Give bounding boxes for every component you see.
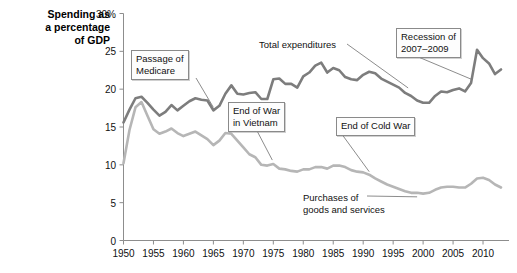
annotation-passage-of-medicare: Passage of Medicare <box>131 50 189 80</box>
series-line-purchases <box>124 102 502 194</box>
x-tick-1965: 1965 <box>202 248 224 259</box>
y-tick-10: 10 <box>74 159 116 170</box>
y-tick-30: 30% <box>74 8 116 19</box>
x-tick-1960: 1960 <box>172 248 194 259</box>
x-tick-1990: 1990 <box>352 248 374 259</box>
x-tick-2005: 2005 <box>442 248 464 259</box>
leader-line-0 <box>196 78 213 107</box>
annotation-recession-of-2007-2009: Recession of 2007–2009 <box>396 28 461 58</box>
y-tick-20: 20 <box>74 84 116 95</box>
y-tick-25: 25 <box>74 46 116 57</box>
x-tick-1980: 1980 <box>292 248 314 259</box>
y-tick-0: 0 <box>74 235 116 246</box>
x-tick-1970: 1970 <box>232 248 254 259</box>
annotation-end-of-war-in-vietnam: End of War in Vietnam <box>228 102 285 132</box>
chart-container: Spending as a percentage of GDP 05101520… <box>0 0 517 273</box>
series-label-purchases-of-goods-and-services: Purchases of goods and services <box>303 192 385 215</box>
y-tick-15: 15 <box>74 122 116 133</box>
x-tick-1995: 1995 <box>382 248 404 259</box>
leader-line-3 <box>416 56 471 79</box>
x-tick-1950: 1950 <box>112 248 134 259</box>
y-tick-5: 5 <box>74 197 116 208</box>
x-tick-2010: 2010 <box>472 248 494 259</box>
x-tick-2000: 2000 <box>412 248 434 259</box>
series-label-total-expenditures: Total expenditures <box>259 39 336 51</box>
x-tick-1955: 1955 <box>142 248 164 259</box>
x-tick-1985: 1985 <box>322 248 344 259</box>
x-tick-1975: 1975 <box>262 248 284 259</box>
annotation-end-of-cold-war: End of Cold War <box>336 117 415 136</box>
